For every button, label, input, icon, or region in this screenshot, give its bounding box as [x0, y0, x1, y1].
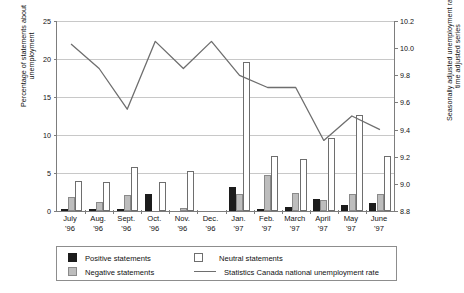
- right-axis-tick-label: 9.6: [400, 98, 422, 107]
- legend-swatch-neutral: [194, 253, 203, 262]
- left-axis-tick-label: 15: [31, 93, 51, 102]
- right-axis-tick-label: 8.8: [400, 207, 422, 216]
- left-axis-tick-label: 5: [31, 169, 51, 178]
- legend-label-negative: Negative statements: [85, 268, 154, 277]
- right-axis-tick: [394, 21, 398, 22]
- right-axis-tick: [394, 184, 398, 185]
- x-axis-label-year: '97: [359, 224, 399, 234]
- right-axis-tick-label: 9.0: [400, 179, 422, 188]
- left-axis-tick-label: 0: [31, 207, 51, 216]
- right-axis-tick: [394, 157, 398, 158]
- legend-swatch-negative: [68, 267, 77, 276]
- right-axis-tick: [394, 75, 398, 76]
- right-axis-tick-label: 9.4: [400, 125, 422, 134]
- unemployment-rate-line: [57, 21, 394, 211]
- right-axis-tick-label: 10.2: [400, 17, 422, 26]
- right-axis-tick: [394, 130, 398, 131]
- left-axis-tick-label: 10: [31, 131, 51, 140]
- left-axis-tick: [54, 211, 57, 212]
- left-axis-tick-label: 25: [31, 17, 51, 26]
- legend-swatch-line: [194, 271, 216, 272]
- x-axis-label-month: June: [359, 214, 399, 224]
- legend-swatch-positive: [68, 253, 77, 262]
- right-axis-tick-label: 9.8: [400, 71, 422, 80]
- right-axis-tick-label: 10.0: [400, 44, 422, 53]
- right-axis-tick: [394, 211, 398, 212]
- y-axis-right-title: Seasonally adjusted unemployment rate, t…: [446, 0, 464, 146]
- chart-legend: Positive statements Negative statements …: [56, 246, 397, 281]
- left-axis-tick-label: 20: [31, 55, 51, 64]
- plot-area: [56, 21, 395, 211]
- right-axis-tick-label: 9.2: [400, 152, 422, 161]
- legend-label-positive: Positive statements: [85, 254, 151, 263]
- legend-item-neutral: Neutral statements: [194, 252, 394, 264]
- legend-item-rate-line: Statistics Canada national unemployment …: [194, 266, 404, 278]
- legend-label-rate-line: Statistics Canada national unemployment …: [224, 268, 379, 277]
- right-axis-tick: [394, 48, 398, 49]
- x-axis-label: June'97: [359, 214, 399, 233]
- right-axis-tick: [394, 102, 398, 103]
- legend-label-neutral: Neutral statements: [219, 254, 283, 263]
